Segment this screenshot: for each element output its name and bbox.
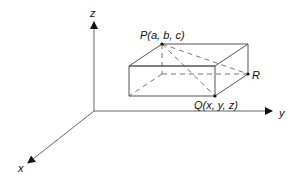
point-r-label: R: [252, 69, 260, 81]
hidden-edges: [129, 44, 248, 96]
point-p-dot: [160, 42, 163, 45]
coordinate-box-diagram: z y x P(a, b, c) Q(x, y, z) R: [0, 0, 302, 184]
diagonal-p-r: [162, 44, 248, 74]
point-r-dot: [246, 72, 249, 75]
point-q-label: Q(x, y, z): [194, 99, 238, 111]
y-axis-label: y: [278, 107, 286, 119]
x-axis: [28, 111, 94, 163]
z-axis-label: z: [89, 7, 96, 19]
x-axis-label: x: [17, 162, 24, 174]
point-p-label: P(a, b, c): [140, 29, 185, 41]
diagonal-p-q: [162, 44, 215, 96]
point-q-dot: [213, 94, 216, 97]
axes: [28, 22, 272, 163]
